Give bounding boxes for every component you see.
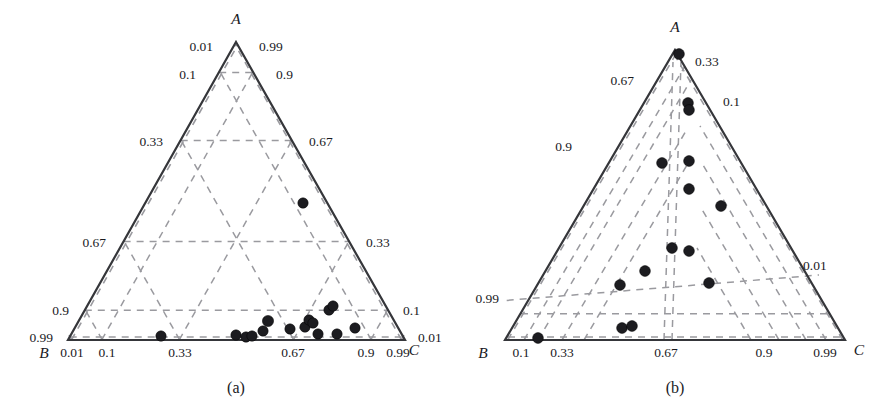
panel-b-bottom-tick-0.33: 0.33: [550, 345, 574, 360]
panel-a-right-tick-0.99: 0.99: [259, 39, 283, 54]
panel-a-bottom-tick-0.1: 0.1: [99, 345, 116, 360]
panel-a-right-tick-0.33: 0.33: [366, 235, 390, 250]
panel-a-group: A B C 0.01 0.1 0.33 0.67 0.9 0.99 0.99 0…: [29, 10, 441, 397]
panel-a-caption: (a): [227, 379, 245, 397]
panel-a-bottom-tick-0.01: 0.01: [60, 345, 84, 360]
panel-b-gridlines: [507, 53, 843, 340]
panel-b-caption: (b): [666, 379, 685, 397]
figure-canvas: A B C 0.01 0.1 0.33 0.67 0.9 0.99 0.99 0…: [0, 0, 895, 415]
panel-a-apex-label: A: [230, 10, 241, 27]
panel-a-bottom-tick-0.33: 0.33: [168, 345, 192, 360]
panel-a-left-tick-0.1: 0.1: [179, 67, 196, 82]
ternary-diagrams-svg: A B C 0.01 0.1 0.33 0.67 0.9 0.99 0.99 0…: [0, 0, 895, 415]
panel-a-bottom-tick-0.9: 0.9: [358, 345, 375, 360]
panel-a-left-tick-0.99: 0.99: [29, 330, 53, 345]
panel-b-left-tick-0.67: 0.67: [610, 73, 634, 88]
panel-a-bottom-tick-0.67: 0.67: [281, 345, 305, 360]
panel-b-apex-label: A: [669, 18, 680, 35]
panel-b-left-tick-0.9: 0.9: [555, 139, 572, 154]
panel-a-left-tick-0.01: 0.01: [189, 39, 213, 54]
panel-b-right-tick-0.1: 0.1: [723, 94, 740, 109]
panel-a-right-tick-0.1: 0.1: [403, 303, 420, 318]
panel-a-right-tick-0.01: 0.01: [418, 330, 442, 345]
panel-a-right-tick-0.67: 0.67: [309, 134, 333, 149]
panel-a-gridlines: [69, 45, 404, 340]
panel-a-left-tick-0.67: 0.67: [82, 235, 106, 250]
panel-b-right-tick-0.33: 0.33: [695, 54, 719, 69]
panel-a-right-tick-0.9: 0.9: [276, 67, 293, 82]
panel-b-left-tick-0.99: 0.99: [475, 291, 499, 306]
panel-b-triangle-outline: [505, 50, 845, 340]
panel-b-right-vertex-label: C: [854, 341, 865, 358]
panel-b-bottom-tick-0.67: 0.67: [654, 345, 678, 360]
panel-a-left-tick-0.33: 0.33: [139, 134, 163, 149]
panel-a-left-tick-0.9: 0.9: [52, 303, 69, 318]
panel-a-bottom-tick-0.99: 0.99: [386, 345, 410, 360]
panel-b-right-tick-0.01: 0.01: [803, 258, 827, 273]
panel-a-left-vertex-label: B: [39, 344, 49, 361]
panel-a-points: [156, 198, 360, 342]
panel-a-triangle-outline: [68, 42, 405, 340]
panel-b-bottom-tick-0.1: 0.1: [513, 345, 530, 360]
panel-b-left-vertex-label: B: [478, 344, 488, 361]
panel-b-group: A B C 0.67 0.9 0.99 0.33 0.1 0.01 0.1 0.…: [475, 18, 864, 397]
panel-b-bottom-tick-0.99: 0.99: [813, 345, 837, 360]
panel-b-bottom-tick-0.9: 0.9: [756, 345, 773, 360]
